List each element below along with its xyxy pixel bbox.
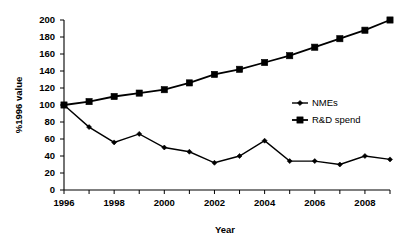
data-point-marker (236, 66, 242, 72)
y-axis-tick-labels: 020406080100120140160180200 (39, 14, 55, 195)
data-point-marker (337, 36, 343, 42)
y-axis-title: %1996 value (13, 77, 24, 134)
data-point-marker (337, 162, 342, 167)
y-tick-label: 160 (39, 48, 55, 59)
x-tick-label: 2006 (304, 197, 325, 208)
data-point-marker (186, 80, 192, 86)
data-point-marker (161, 87, 167, 93)
chart-legend: NMEsR&D spend (292, 97, 361, 125)
x-axis-tick-labels: 1996199820002002200420062008 (53, 197, 375, 208)
axis-lines (60, 20, 390, 194)
data-point-marker (312, 159, 317, 164)
chart-container: 020406080100120140160180200 199619982000… (0, 0, 401, 243)
data-point-marker (388, 157, 393, 162)
data-point-marker (86, 99, 92, 105)
y-tick-label: 0 (50, 184, 55, 195)
legend-item-nmes: NMEs (292, 97, 338, 108)
legend-marker-square-icon (297, 117, 303, 123)
data-point-marker (61, 102, 67, 108)
x-tick-label: 2000 (154, 197, 175, 208)
line-chart: 020406080100120140160180200 199619982000… (0, 0, 401, 243)
data-point-marker (287, 53, 293, 59)
data-point-marker (187, 149, 192, 154)
data-point-marker (312, 44, 318, 50)
y-tick-label: 20 (44, 167, 55, 178)
data-point-marker (262, 59, 268, 65)
y-tick-label: 40 (44, 150, 55, 161)
x-tick-label: 1998 (104, 197, 125, 208)
legend-label: R&D spend (312, 114, 361, 125)
x-axis-title: Year (215, 224, 235, 235)
data-point-marker (387, 17, 393, 23)
data-point-marker (162, 145, 167, 150)
series-r-d-spend (61, 17, 393, 108)
data-point-marker (362, 27, 368, 33)
data-point-marker (111, 93, 117, 99)
data-point-marker (211, 71, 217, 77)
data-point-marker (137, 131, 142, 136)
series-layer (61, 17, 393, 167)
legend-label: NMEs (312, 97, 338, 108)
data-point-marker (136, 90, 142, 96)
x-tick-label: 2008 (354, 197, 375, 208)
y-tick-label: 200 (39, 14, 55, 25)
legend-marker-diamond-icon (297, 100, 302, 105)
y-tick-label: 100 (39, 99, 55, 110)
y-tick-label: 180 (39, 31, 55, 42)
x-tick-label: 2004 (254, 197, 276, 208)
y-tick-label: 140 (39, 65, 55, 76)
y-tick-label: 120 (39, 82, 55, 93)
data-point-marker (212, 160, 217, 165)
series-nmes (62, 103, 393, 168)
data-point-marker (362, 154, 367, 159)
x-tick-label: 1996 (53, 197, 74, 208)
x-tick-label: 2002 (204, 197, 225, 208)
y-tick-label: 60 (44, 133, 55, 144)
legend-item-r-d-spend: R&D spend (292, 114, 361, 125)
y-tick-label: 80 (44, 116, 55, 127)
series-line (64, 20, 390, 105)
